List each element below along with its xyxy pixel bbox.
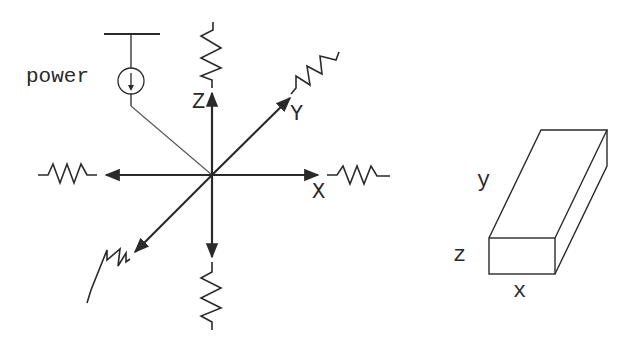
power-label: power — [26, 66, 89, 87]
axis-label-y: Y — [290, 104, 303, 126]
axis-label-x: X — [312, 182, 325, 204]
dimension-label-z: z — [453, 245, 466, 267]
rectangular-box — [489, 130, 607, 274]
spring-y-negative-icon — [87, 249, 130, 303]
axes — [106, 93, 318, 257]
spring-x-negative-icon — [38, 164, 97, 183]
dimension-label-y: y — [477, 170, 490, 192]
spring-x-positive-icon — [327, 166, 390, 184]
box-front-face — [489, 238, 555, 274]
axis-y-positive — [212, 98, 290, 175]
axis-label-z: Z — [192, 92, 205, 114]
spring-y-positive-icon — [291, 52, 339, 94]
mechanical-diagram — [0, 0, 632, 343]
spring-z-negative-icon — [201, 262, 221, 330]
box-side-face — [555, 130, 607, 274]
dimension-label-x: x — [513, 281, 526, 303]
spring-z-positive-icon — [201, 22, 221, 88]
box-top-face — [489, 130, 607, 238]
power-wire — [131, 106, 212, 175]
axis-y-negative — [135, 175, 212, 252]
